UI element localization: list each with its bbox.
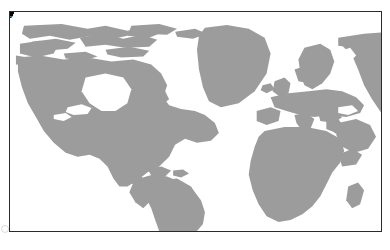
figure-root: a b c d e f xyxy=(0,0,390,250)
map-marker-layer: a b c d e f xyxy=(10,12,381,231)
map-panel: a b c d e f xyxy=(9,11,382,232)
watermark xyxy=(0,176,9,234)
map-point-label-j: j xyxy=(9,11,12,18)
watermark-mark-icon xyxy=(1,225,9,233)
